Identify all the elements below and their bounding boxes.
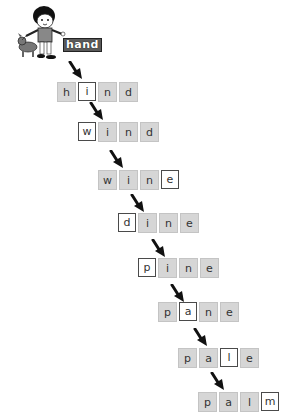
word-row-pale: pale (178, 348, 259, 367)
letter-box: i (138, 213, 157, 233)
letter-box: e (180, 213, 199, 233)
changed-letter-box: p (138, 258, 156, 277)
letter-box: a (199, 348, 218, 368)
letter-box: e (220, 302, 239, 322)
letter-box: p (158, 302, 177, 322)
word-row-pine: pine (138, 258, 219, 277)
word-row-wine: wine (98, 170, 179, 189)
letter-box: w (98, 170, 117, 190)
down-right-arrow-icon (109, 150, 125, 170)
letter-box: n (199, 302, 218, 322)
letter-box: e (200, 258, 219, 278)
changed-letter-box: d (118, 213, 136, 232)
changed-letter-box: e (161, 170, 179, 189)
changed-letter-box: l (220, 348, 238, 367)
down-right-arrow-icon (130, 194, 146, 214)
down-right-arrow-icon (68, 61, 84, 81)
letter-box: n (159, 213, 178, 233)
down-right-arrow-icon (170, 284, 186, 304)
changed-letter-box: w (78, 122, 96, 141)
changed-letter-box: i (78, 82, 96, 101)
letter-box: p (178, 348, 197, 368)
letter-box: i (158, 258, 177, 278)
letter-box: d (119, 82, 138, 102)
letter-box: n (179, 258, 198, 278)
letter-box: a (219, 392, 238, 412)
down-right-arrow-icon (210, 372, 226, 392)
start-word-label: hand (63, 38, 102, 52)
letter-box: i (98, 122, 117, 142)
letter-box: i (119, 170, 138, 190)
letter-box: e (240, 348, 259, 368)
word-row-wind: wind (78, 122, 159, 141)
changed-letter-box: m (261, 392, 279, 411)
down-right-arrow-icon (193, 328, 209, 348)
letter-box: p (198, 392, 217, 412)
down-right-arrow-icon (151, 239, 167, 259)
down-right-arrow-icon (89, 102, 105, 122)
letter-box: n (119, 122, 138, 142)
child-with-dog-illustration (14, 0, 66, 64)
word-row-palm: palm (198, 392, 279, 411)
letter-box: h (57, 82, 76, 102)
changed-letter-box: a (179, 302, 197, 321)
word-row-pane: pane (158, 302, 239, 321)
letter-box: l (240, 392, 259, 412)
word-row-dine: dine (118, 213, 199, 232)
letter-box: d (140, 122, 159, 142)
letter-box: n (98, 82, 117, 102)
letter-box: n (140, 170, 159, 190)
word-row-hind: hind (57, 82, 138, 101)
